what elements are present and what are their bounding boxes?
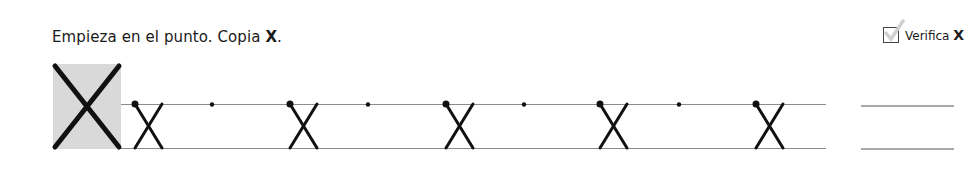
tracing-sheet <box>0 0 972 170</box>
traced-x-1 <box>133 102 162 148</box>
guide-lines <box>121 105 826 149</box>
traced-x-5 <box>754 102 783 148</box>
traced-x-3 <box>444 102 473 148</box>
traced-x-2 <box>288 102 317 148</box>
traced-letters <box>133 102 783 148</box>
start-dot <box>677 102 681 106</box>
answer-lines <box>861 106 954 149</box>
model-letter-x <box>53 64 121 149</box>
start-dot <box>210 102 214 106</box>
traced-x-4 <box>598 102 627 148</box>
start-dot <box>366 102 370 106</box>
start-dot <box>522 102 526 106</box>
